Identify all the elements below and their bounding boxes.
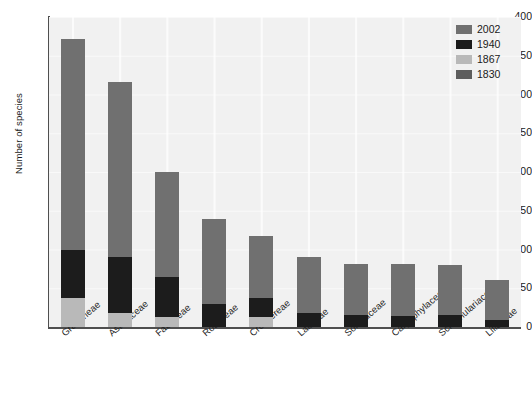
bar-segment-1940[interactable] [391, 316, 415, 327]
bar-segment-1940[interactable] [485, 320, 509, 327]
bar-segment-2002[interactable] [61, 39, 85, 250]
bar-group[interactable] [61, 39, 85, 327]
bar-segment-2002[interactable] [249, 236, 273, 297]
bar-series-container [49, 17, 521, 327]
y-tick-label: 50 [520, 281, 532, 293]
bar-group[interactable] [344, 264, 368, 327]
bar-segment-1867[interactable] [108, 313, 132, 327]
bar-segment-2002[interactable] [297, 257, 321, 313]
bar-segment-2002[interactable] [391, 264, 415, 316]
bar-segment-2002[interactable] [344, 264, 368, 315]
bar-group[interactable] [108, 82, 132, 327]
bar-segment-1867[interactable] [61, 298, 85, 327]
bar-segment-1940[interactable] [249, 298, 273, 317]
bar-segment-1867[interactable] [249, 317, 273, 327]
plot-area [49, 17, 521, 327]
bar-segment-1940[interactable] [438, 315, 462, 327]
bar-group[interactable] [297, 257, 321, 327]
bar-segment-2002[interactable] [202, 219, 226, 304]
bar-group[interactable] [485, 280, 509, 327]
bar-segment-2002[interactable] [485, 280, 509, 320]
bar-group[interactable] [438, 265, 462, 327]
bar-segment-1940[interactable] [202, 304, 226, 327]
bar-segment-1940[interactable] [155, 277, 179, 317]
bar-segment-1940[interactable] [108, 257, 132, 313]
bar-group[interactable] [202, 219, 226, 328]
bar-segment-1940[interactable] [61, 250, 85, 298]
bar-segment-1940[interactable] [344, 315, 368, 327]
bar-segment-2002[interactable] [108, 82, 132, 257]
bar-group[interactable] [391, 264, 415, 327]
bar-group[interactable] [249, 236, 273, 327]
bar-segment-1867[interactable] [155, 317, 179, 327]
bar-segment-2002[interactable] [155, 172, 179, 277]
chart-figure: Number of species 0501001502002503003504… [0, 0, 532, 401]
bar-segment-1940[interactable] [297, 313, 321, 327]
bar-segment-2002[interactable] [438, 265, 462, 315]
x-axis-ticklabels: GramineaeAsteraceaeFabaceaeRosaceaeCruci… [49, 330, 521, 401]
bar-group[interactable] [155, 172, 179, 327]
